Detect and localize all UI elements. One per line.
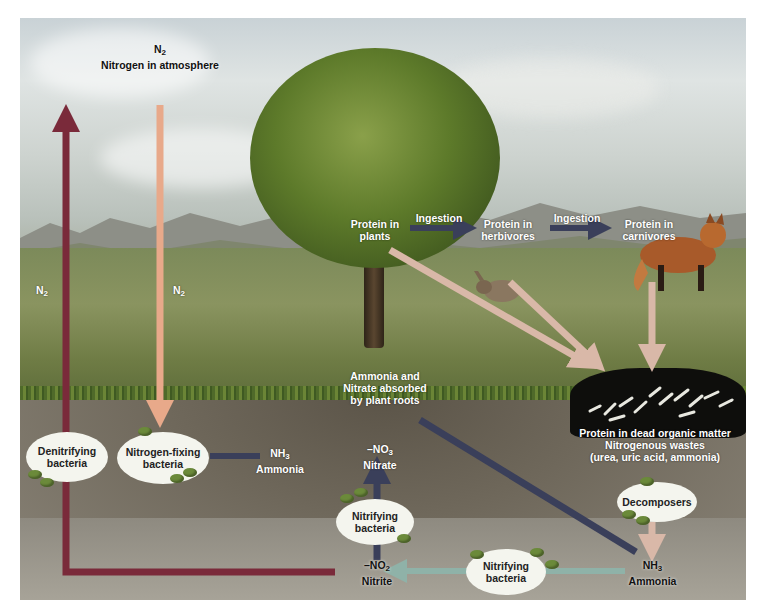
atmosphere-label: N2 Nitrogen in atmosphere bbox=[70, 43, 250, 71]
n2-formula: N bbox=[154, 43, 162, 55]
protein-in-plants-label: Protein inplants bbox=[345, 218, 405, 242]
protein-in-carnivores-label: Protein incarnivores bbox=[618, 218, 680, 242]
bacteria-pellet bbox=[138, 427, 152, 436]
bacteria-pellet bbox=[636, 516, 650, 525]
bacteria-pellet bbox=[354, 488, 368, 497]
nitrate-label: –NO3Nitrate bbox=[355, 443, 405, 471]
ingestion-label-2: Ingestion bbox=[549, 212, 605, 224]
ammonia-mid-label: NH3Ammonia bbox=[255, 447, 305, 475]
nitrite-label: –NO2Nitrite bbox=[352, 559, 402, 587]
bacteria-pellet bbox=[640, 477, 654, 486]
bacteria-pellet bbox=[397, 534, 411, 543]
n2-right-label: N2 bbox=[173, 284, 185, 300]
n2-left-label: N2 bbox=[36, 284, 48, 300]
bacteria-pellet bbox=[40, 478, 54, 487]
bacteria-pellet bbox=[170, 474, 184, 483]
atmosphere-text: Nitrogen in atmosphere bbox=[101, 59, 219, 71]
bacteria-pellet bbox=[545, 560, 559, 569]
nitrogen-fixing-bacteria-bubble: Nitrogen-fixingbacteria bbox=[117, 432, 209, 484]
bacteria-pellet bbox=[622, 510, 636, 519]
protein-in-herbivores-label: Protein inherbivores bbox=[477, 218, 539, 242]
denitrification-arrow bbox=[66, 118, 335, 572]
bacteria-pellet bbox=[28, 470, 42, 479]
ammonia-right-label: NH3Ammonia bbox=[625, 559, 680, 587]
dead-organic-matter-label: Protein in dead organic matterNitrogenou… bbox=[570, 427, 740, 463]
bacteria-pellet bbox=[530, 548, 544, 557]
bacteria-pellet bbox=[470, 550, 484, 559]
bacteria-pellet bbox=[183, 468, 197, 477]
roots-absorption-label: Ammonia andNitrate absorbedby plant root… bbox=[335, 370, 435, 406]
herbivore-decay-arrow bbox=[510, 282, 595, 362]
ingestion-label-1: Ingestion bbox=[410, 212, 468, 224]
plant-decay-arrow bbox=[390, 250, 585, 362]
bacteria-pellet bbox=[340, 494, 354, 503]
